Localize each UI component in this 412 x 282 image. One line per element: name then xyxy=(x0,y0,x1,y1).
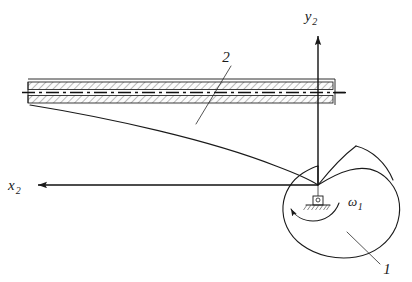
y-axis-label-subscript: 2 xyxy=(312,16,317,27)
x-axis-label-base: x xyxy=(7,177,15,193)
omega-label-subscript: 1 xyxy=(358,201,363,212)
y-axis-label-base: y xyxy=(303,8,312,24)
diagram-canvas: y2 x2 ω1 2 1 xyxy=(0,0,412,282)
beam-hatch-band-bottom xyxy=(28,96,333,104)
part-label-2: 2 xyxy=(222,49,230,65)
cam-mechanism-schematic: y2 x2 ω1 2 1 xyxy=(0,0,412,282)
part-label-1: 1 xyxy=(383,261,391,277)
support-pin-circle xyxy=(316,198,320,202)
beam-hatch-band-top xyxy=(28,82,333,90)
omega-label-base: ω xyxy=(348,194,357,209)
x-axis-label-subscript: 2 xyxy=(16,185,21,196)
background xyxy=(0,0,412,282)
hatched-beam xyxy=(22,79,346,105)
